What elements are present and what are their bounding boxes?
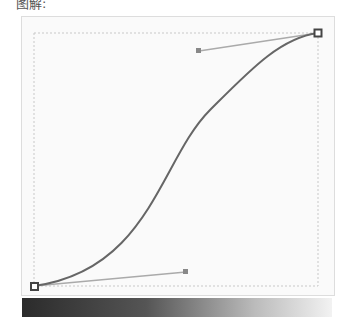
handle-line-start <box>34 272 186 286</box>
gradient-bar <box>22 298 332 317</box>
curve-path <box>34 33 318 286</box>
bezier-curve-editor[interactable] <box>0 0 340 317</box>
anchor-point-end[interactable] <box>315 30 322 37</box>
anchor-point-start[interactable] <box>31 283 38 290</box>
handle-line-end <box>199 33 318 51</box>
control-handle-end[interactable] <box>196 48 201 53</box>
control-handle-start[interactable] <box>183 269 188 274</box>
